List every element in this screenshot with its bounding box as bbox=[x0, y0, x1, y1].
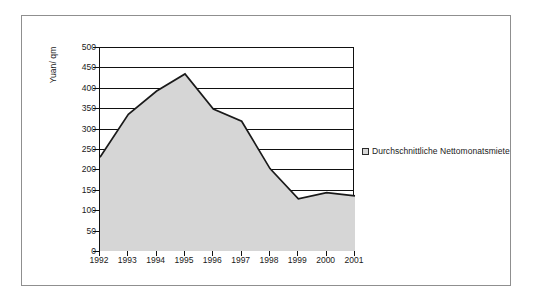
y-axis-tick-label: 100 bbox=[62, 206, 96, 215]
y-axis-tick-label: 0 bbox=[62, 247, 96, 256]
chart-frame: Yuan/ qm 050100150200250300350400450500 … bbox=[21, 15, 511, 286]
y-axis-tick-label: 250 bbox=[62, 145, 96, 154]
y-axis-title: Yuan/ qm bbox=[48, 20, 58, 110]
chart-figure: Yuan/ qm 050100150200250300350400450500 … bbox=[0, 0, 533, 305]
legend-item-label: Durchschnittliche Nettomonatsmiete bbox=[372, 146, 510, 156]
y-axis-tick-label: 450 bbox=[62, 63, 96, 72]
plot-area bbox=[99, 47, 354, 251]
legend-square-icon bbox=[362, 148, 369, 155]
y-axis-tick-label: 350 bbox=[62, 104, 96, 113]
y-axis-tick-label: 50 bbox=[62, 226, 96, 235]
y-axis-tick-label: 150 bbox=[62, 186, 96, 195]
y-axis-tick-label: 400 bbox=[62, 84, 96, 93]
y-axis-tick-label: 200 bbox=[62, 165, 96, 174]
x-axis-tick-label: 2001 bbox=[334, 256, 374, 265]
y-axis-tick-labels: 050100150200250300350400450500 bbox=[58, 47, 96, 251]
y-axis-tick-label: 300 bbox=[62, 124, 96, 133]
x-axis-tick-labels: 1992199319941995199619971998199920002001 bbox=[99, 256, 354, 270]
y-axis-tick-label: 500 bbox=[62, 43, 96, 52]
series-durchschnittliche-nettomonatsmiete bbox=[100, 47, 355, 251]
chart-legend: Durchschnittliche Nettomonatsmiete bbox=[362, 146, 510, 156]
area-fill bbox=[100, 74, 355, 251]
